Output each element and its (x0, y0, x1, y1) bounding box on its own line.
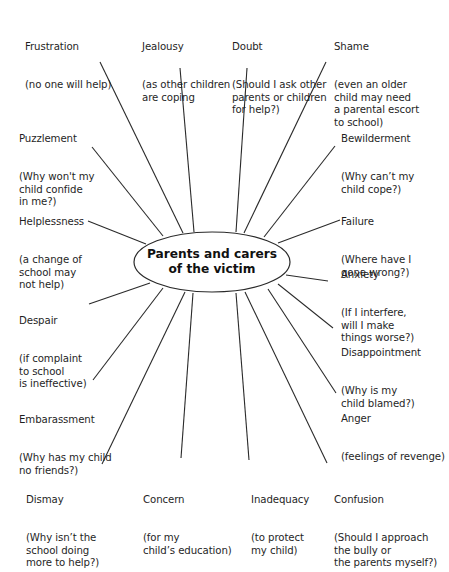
node-detail: (Should I approach the bully or the pare… (334, 532, 437, 570)
spoke-anxiety (286, 275, 328, 281)
node-title: Frustration (25, 41, 111, 54)
node-title: Doubt (232, 41, 327, 54)
node-title: Puzzlement (19, 133, 94, 146)
node-title: Failure (341, 216, 411, 229)
spoke-anger (268, 289, 336, 393)
center-node: Parents and carers of the victim (134, 232, 290, 292)
spoke-dismay (102, 292, 185, 464)
center-title-line1: Parents and carers (147, 247, 277, 262)
node-detail: (to protect my child) (251, 532, 309, 557)
spoke-concern (181, 293, 193, 458)
node-title: Anxiety (341, 269, 414, 282)
node-title: Jealousy (142, 41, 230, 54)
node-helplessness: Helplessness (a change of school may not… (19, 191, 84, 304)
node-title: Dismay (26, 494, 99, 507)
node-title: Despair (19, 315, 87, 328)
node-frustration: Frustration (no one will help) (25, 16, 111, 104)
spoke-embarassment (93, 288, 163, 380)
node-anger: Anger (feelings of revenge) (341, 388, 445, 476)
node-title: Helplessness (19, 216, 84, 229)
node-detail: (if complaint to school is ineffective) (19, 353, 87, 391)
node-title: Disappointment (341, 347, 421, 360)
node-dismay: Dismay (Why isn’t the school doing more … (26, 469, 99, 572)
node-detail: (feelings of revenge) (341, 451, 445, 464)
node-doubt: Doubt (Should I ask other parents or chi… (232, 16, 327, 129)
spoke-confusion (245, 292, 327, 463)
node-title: Confusion (334, 494, 437, 507)
node-inadequacy: Inadequacy (to protect my child) (251, 469, 309, 570)
node-detail: (Should I ask other parents or children … (232, 79, 327, 117)
node-title: Anger (341, 413, 445, 426)
node-title: Shame (334, 41, 419, 54)
node-detail: (for my child’s education) (143, 532, 232, 557)
spoke-puzzlement (92, 147, 163, 236)
node-detail: (no one will help) (25, 79, 111, 92)
node-detail: (Why isn’t the school doing more to help… (26, 532, 99, 570)
node-title: Inadequacy (251, 494, 309, 507)
node-jealousy: Jealousy (as other children are coping (142, 16, 230, 117)
node-despair: Despair (if complaint to school is ineff… (19, 290, 87, 403)
node-concern: Concern (for my child’s education) (143, 469, 232, 570)
spoke-inadequacy (236, 293, 249, 460)
node-detail: (a change of school may not help) (19, 254, 84, 292)
node-title: Bewilderment (341, 133, 414, 146)
center-title-line2: of the victim (169, 262, 256, 277)
node-detail: (as other children are coping (142, 79, 230, 104)
node-title: Concern (143, 494, 232, 507)
node-confusion: Confusion (Should I approach the bully o… (334, 469, 437, 572)
spoke-bewilderment (264, 146, 335, 237)
node-title: Embarassment (19, 414, 112, 427)
